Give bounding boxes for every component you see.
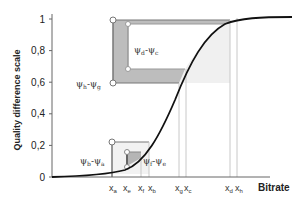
y-tick-labels: 0 0,2 0,4 0,6 0,8 1 <box>31 14 45 183</box>
x-marker-h: xh <box>235 183 243 194</box>
marker-psi-g <box>110 80 116 86</box>
x-marker-e: xe <box>123 183 132 194</box>
y-tick-1: 1 <box>39 14 45 25</box>
x-marker-labels: xa xe xf xb xg xc xd xh <box>109 183 243 194</box>
x-marker-a: xa <box>109 183 118 194</box>
x-marker-d: xd <box>225 183 233 194</box>
upper-difference-region <box>110 17 230 86</box>
x-marker-c: xc <box>184 183 192 194</box>
marker-psi-b <box>109 139 115 145</box>
marker-psi-d <box>126 22 131 27</box>
y-tick-0-6: 0,6 <box>31 77 45 88</box>
marker-psi-c <box>126 67 131 72</box>
y-axis-label: Quality difference scale <box>12 49 22 150</box>
y-tick-0-4: 0,4 <box>31 108 45 119</box>
y-tick-0-8: 0,8 <box>31 45 45 56</box>
annotation-psi-b-psi-a: ψb-ψa <box>80 156 105 167</box>
y-tick-0: 0 <box>39 172 45 183</box>
annotation-psi-f-psi-e: ψf-ψe <box>143 156 166 167</box>
marker-psi-h <box>110 17 116 23</box>
y-tick-0-2: 0,2 <box>31 140 45 151</box>
x-marker-f: xf <box>138 183 145 194</box>
x-marker-g: xg <box>175 183 183 194</box>
x-axis-label: Bitrate <box>258 182 290 193</box>
marker-psi-f <box>125 150 130 155</box>
x-marker-b: xb <box>148 183 157 194</box>
annotation-psi-h-psi-g: ψh-ψg <box>76 79 101 91</box>
quality-bitrate-chart: 0 0,2 0,4 0,6 0,8 1 Quality difference s… <box>0 0 305 202</box>
